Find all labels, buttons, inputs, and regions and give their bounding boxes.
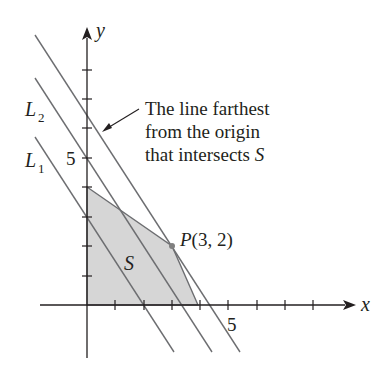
- annotation-arrow: [106, 109, 139, 129]
- y-tick-label-5: 5: [66, 148, 76, 169]
- svg-text:1: 1: [38, 161, 45, 176]
- annotation-line-3: that intersects S: [145, 144, 265, 165]
- svg-text:L: L: [24, 149, 36, 171]
- y-axis-label: y: [94, 19, 105, 42]
- label-l2: L 2: [24, 98, 45, 125]
- region-label-s: S: [124, 252, 134, 274]
- svg-text:L: L: [24, 98, 36, 120]
- line-l2: [35, 78, 212, 352]
- diagram-canvas: x y 5 5 L 2 L 1 S P(3, 2) The line farth…: [0, 0, 387, 371]
- point-p: [169, 243, 175, 249]
- annotation-arrowhead-icon: [102, 123, 112, 132]
- annotation-line-1: The line farthest: [145, 98, 270, 119]
- svg-text:2: 2: [38, 110, 45, 125]
- x-axis-label: x: [360, 293, 370, 315]
- label-l1: L 1: [24, 149, 45, 176]
- annotation-line-2: from the origin: [145, 121, 261, 142]
- point-p-label: P(3, 2): [179, 229, 233, 251]
- x-tick-label-5: 5: [227, 314, 237, 335]
